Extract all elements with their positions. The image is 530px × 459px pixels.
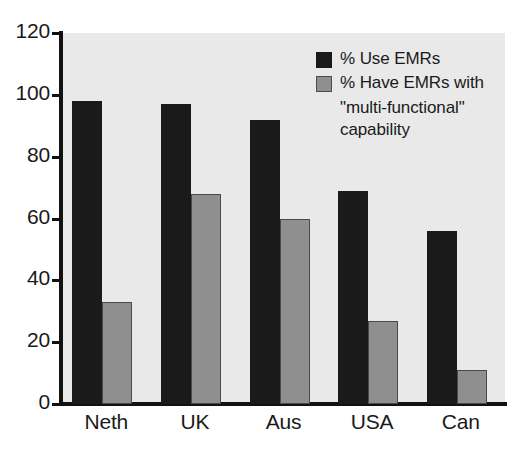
y-axis-tick — [52, 218, 63, 221]
legend-item-use-emrs: % Use EMRs — [316, 48, 516, 70]
y-axis-tick-label: 120 — [4, 19, 50, 43]
y-axis-tick-label: 100 — [4, 81, 50, 105]
y-axis-tick-label: 60 — [4, 205, 50, 229]
bar-uk-use-emrs — [161, 104, 191, 404]
legend-item-multifunctional-emrs: % Have EMRs with — [316, 72, 516, 94]
bar-aus-use-emrs — [250, 120, 280, 404]
y-axis-tick — [52, 32, 63, 35]
bar-neth-use-emrs — [72, 101, 102, 404]
x-axis-tick-label-aus: Aus — [239, 410, 328, 434]
y-axis-tick-label: 80 — [4, 143, 50, 167]
bar-usa-use-emrs — [338, 191, 368, 404]
y-axis-tick — [52, 94, 63, 97]
chart-legend: % Use EMRs % Have EMRs with "multi-funct… — [316, 48, 516, 142]
x-axis-tick-label-uk: UK — [151, 410, 240, 434]
bar-chart-figure: 020406080100120 NethUKAusUSACan % Use EM… — [0, 0, 530, 459]
bar-can-use-emrs — [427, 231, 457, 404]
legend-label-multifunctional-line1: % Have EMRs with — [340, 72, 484, 94]
y-axis-tick-label: 0 — [4, 390, 50, 414]
legend-label-multifunctional-line2: "multi-functional" — [340, 97, 516, 119]
bar-usa-multifunctional — [368, 321, 398, 404]
x-axis-tick-label-usa: USA — [328, 410, 417, 434]
x-axis-tick-label-can: Can — [416, 410, 505, 434]
y-axis-tick-label: 20 — [4, 328, 50, 352]
bar-uk-multifunctional — [191, 194, 221, 404]
legend-swatch-dark-square — [316, 52, 332, 68]
legend-label-use-emrs: % Use EMRs — [340, 48, 440, 70]
bar-can-multifunctional — [457, 370, 487, 404]
legend-swatch-gray-square — [316, 76, 332, 92]
y-axis-tick — [52, 279, 63, 282]
y-axis-tick-labels: 020406080100120 — [0, 0, 50, 459]
y-axis-tick — [52, 156, 63, 159]
bar-neth-multifunctional — [102, 302, 132, 404]
y-axis-tick-label: 40 — [4, 266, 50, 290]
legend-label-multifunctional-line3: capability — [340, 119, 516, 141]
y-axis-tick — [52, 341, 63, 344]
y-axis-tick — [52, 403, 63, 406]
bar-aus-multifunctional — [280, 219, 310, 405]
x-axis-tick-label-neth: Neth — [62, 410, 151, 434]
